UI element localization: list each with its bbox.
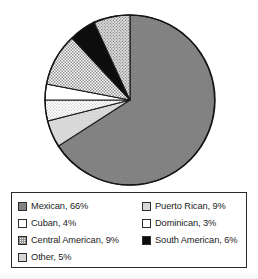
legend-item-dominican: Dominican, 3%	[142, 219, 254, 228]
legend-grid: Mexican, 66% Puerto Rican, 9% Cuban, 4% …	[12, 198, 246, 266]
legend-label-dominican: Dominican, 3%	[155, 219, 216, 228]
legend-swatch-dominican	[142, 219, 151, 228]
chart-legend: Mexican, 66% Puerto Rican, 9% Cuban, 4% …	[11, 192, 247, 268]
legend-item-mexican: Mexican, 66%	[18, 202, 142, 211]
legend-swatch-other	[18, 253, 27, 262]
legend-item-cuban: Cuban, 4%	[18, 219, 142, 228]
legend-label-puerto-rican: Puerto Rican, 9%	[155, 202, 226, 211]
legend-label-central-american: Central American, 9%	[31, 236, 119, 245]
legend-swatch-central-american	[18, 236, 27, 245]
legend-swatch-cuban	[18, 219, 27, 228]
legend-label-other: Other, 5%	[31, 253, 71, 262]
legend-item-puerto-rican: Puerto Rican, 9%	[142, 202, 254, 211]
legend-swatch-mexican	[18, 202, 27, 211]
pie-slices	[45, 15, 215, 185]
legend-label-mexican: Mexican, 66%	[31, 202, 88, 211]
legend-item-south-american: South American, 6%	[142, 236, 254, 245]
legend-swatch-puerto-rican	[142, 202, 151, 211]
pie-chart-svg	[0, 0, 258, 196]
legend-item-central-american: Central American, 9%	[18, 236, 142, 245]
legend-label-cuban: Cuban, 4%	[31, 219, 76, 228]
pie-chart-figure: Mexican, 66% Puerto Rican, 9% Cuban, 4% …	[0, 0, 258, 279]
legend-label-south-american: South American, 6%	[155, 236, 237, 245]
scan-edge-artifact	[0, 272, 258, 279]
legend-item-other: Other, 5%	[18, 253, 142, 262]
pie-chart-area	[0, 0, 258, 196]
legend-swatch-south-american	[142, 236, 151, 245]
